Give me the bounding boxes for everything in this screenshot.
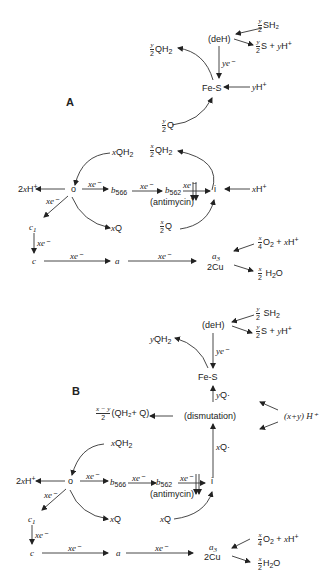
fraction: x − y2 (96, 406, 110, 421)
fraction: y2 (256, 306, 260, 321)
xqh2-half-a: x2QH2 (150, 143, 172, 158)
deh-a: (deH) (208, 34, 231, 44)
yh-in-a: yH+ (252, 82, 267, 92)
xe-o-c1-a: xe⁻ (46, 196, 59, 206)
panel-a-label: A (66, 96, 74, 108)
yq-radical-b: yQ· (216, 390, 230, 400)
xe-o-b566-a: xe⁻ (88, 179, 101, 189)
ye-label-a: ye⁻ (222, 58, 235, 68)
xe-a-a3-a: xe⁻ (158, 251, 171, 261)
cyt-a-a: a (115, 256, 120, 266)
sh2-a: y2SH₂ (258, 18, 279, 33)
2xh-b: 2xH+ (16, 476, 36, 486)
fe-s-b: Fe-S (198, 372, 218, 382)
b562-a: b562 (165, 185, 181, 195)
h2o-a: x2 H2O (258, 266, 283, 281)
yqh2-b: yQH2 (150, 334, 171, 344)
antimycin-a: (antimycin) (150, 197, 194, 207)
xe-c1-c-a: xe⁻ (37, 238, 50, 248)
fe-s-a: Fe-S (202, 83, 222, 93)
xe-c-a-a: xe⁻ (70, 251, 83, 261)
qh2-half-a: y2QH2 (150, 42, 172, 57)
site-i-a: i (214, 184, 216, 194)
b566-a: b566 (111, 185, 127, 195)
2cu-b: 2Cu (204, 552, 221, 562)
c1-a: c1 (29, 222, 37, 232)
dismutation-b: (dismutation) (184, 411, 236, 421)
fraction: x2 (160, 219, 164, 234)
xe-o-b566-b: xe⁻ (86, 471, 99, 481)
fraction: y2 (150, 42, 154, 57)
antimycin-b: (antimycin) (150, 489, 194, 499)
xh-in-a: xH+ (252, 184, 267, 194)
q-half-a: y2Q (162, 118, 174, 133)
xe-b566-b562-a: xe⁻ (140, 181, 153, 191)
a3-a: a3 (212, 251, 220, 261)
xe-b562-i-b: xe⁻ (180, 473, 193, 483)
2cu-a: 2Cu (207, 262, 224, 272)
xq-out-b: xQ (110, 514, 121, 524)
fraction: y2 (256, 324, 260, 339)
xqh2-a: xQH2 (112, 147, 133, 157)
2xh-a: 2xH+ (18, 184, 38, 194)
fraction: x2 (258, 556, 262, 571)
s-plus-yh-a: y2S + yH+ (256, 39, 292, 54)
xe-c-a-b: xe⁻ (68, 543, 81, 553)
site-o-a: o (71, 184, 76, 194)
xe-o-c1-b: xe⁻ (44, 490, 57, 500)
xy-protons-b: (x+y) H⁺ (284, 411, 318, 421)
xe-b566-b562-b: xe⁻ (132, 473, 145, 483)
fraction: y2 (162, 118, 166, 133)
fraction: x4 (258, 532, 262, 547)
fraction: y2 (258, 18, 262, 33)
xq-in-b: xQ (160, 514, 171, 524)
xe-b562-i-a: xe⁻ (183, 180, 196, 190)
c1-b: c1 (28, 514, 36, 524)
o2-xh-a: x4O2 + xH+ (258, 235, 299, 250)
cyt-a-b: a (116, 548, 121, 558)
xe-a-a3-b: xe⁻ (155, 543, 168, 553)
b562-b: b562 (156, 477, 172, 487)
a3-b: a3 (209, 542, 217, 552)
s-plus-yh-b: y2S + yH+ (256, 324, 292, 339)
deh-b: (deH) (202, 320, 225, 330)
fraction: x2 (258, 266, 262, 281)
panel-b-label: B (72, 385, 80, 397)
xqh2-b: xQH2 (111, 438, 132, 448)
qh2-q-products-b: x − y2(QH₂+ Q) (96, 406, 149, 421)
site-i-b: i (211, 476, 213, 486)
fraction: x4 (258, 235, 262, 250)
b566-b: b566 (110, 477, 126, 487)
cyt-c-a: c (32, 256, 36, 266)
site-o-b: o (68, 476, 73, 486)
xe-c1-c-b: xe⁻ (35, 530, 48, 540)
fraction: y2 (256, 39, 260, 54)
xq-radical-b: xQ· (216, 442, 230, 452)
h2o-b: x2H2O (258, 556, 280, 571)
cyt-c-b: c (30, 548, 34, 558)
fraction: x2 (150, 143, 154, 158)
xq-a: xQ (111, 223, 122, 233)
xq-half-a: x2Q (160, 219, 172, 234)
o2-xh-b: x4O2 + xH+ (258, 532, 299, 547)
ye-label-b: ye⁻ (216, 346, 229, 356)
sh2-b: y2 SH2 (256, 306, 280, 321)
